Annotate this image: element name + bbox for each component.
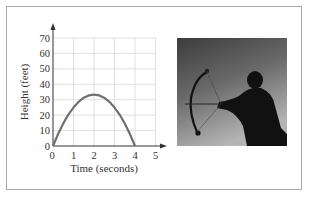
svg-text:20: 20 xyxy=(40,110,51,121)
svg-text:2: 2 xyxy=(91,150,96,161)
y-axis-arrow-icon xyxy=(51,23,56,30)
svg-text:3: 3 xyxy=(112,150,117,161)
y-tick-labels: 0 10 20 30 40 50 60 70 xyxy=(40,33,51,152)
archer-photo xyxy=(177,38,287,146)
svg-text:40: 40 xyxy=(40,79,51,90)
svg-text:4: 4 xyxy=(132,150,138,161)
axes xyxy=(53,27,163,146)
svg-text:60: 60 xyxy=(40,48,51,59)
grid xyxy=(53,38,156,146)
svg-text:1: 1 xyxy=(71,150,76,161)
x-axis-label: Time (seconds) xyxy=(70,162,138,175)
y-axis-label: Height (feet) xyxy=(18,63,31,120)
svg-text:5: 5 xyxy=(153,150,158,161)
x-tick-labels: 0 1 2 3 4 5 xyxy=(49,150,158,161)
svg-text:0: 0 xyxy=(49,150,54,161)
svg-text:70: 70 xyxy=(40,33,51,44)
svg-text:50: 50 xyxy=(40,63,51,74)
svg-text:10: 10 xyxy=(40,125,51,136)
svg-text:30: 30 xyxy=(40,94,51,105)
x-axis-arrow-icon xyxy=(160,144,167,149)
